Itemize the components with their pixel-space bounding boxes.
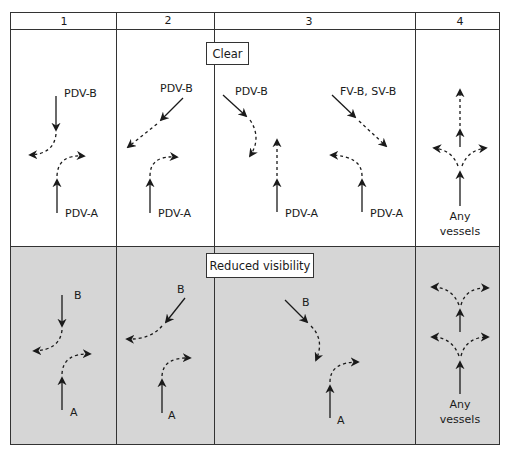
reduced-col2-bottom-vessel: A bbox=[168, 409, 176, 422]
clear-col3-right-bottom-vessel: PDV-A bbox=[370, 207, 404, 220]
clear-col3-left-top-vessel: PDV-B bbox=[235, 85, 268, 98]
dashed-turn-arrow-icon bbox=[57, 156, 84, 176]
clear-col4-diagram bbox=[434, 90, 486, 206]
clear-label: Clear bbox=[212, 47, 242, 61]
clear-col1-bottom-vessel: PDV-A bbox=[65, 207, 99, 220]
clear-col4-vessel-line2: vessels bbox=[440, 225, 481, 238]
reduced-col3-bottom-vessel: A bbox=[337, 414, 345, 427]
column-header-1: 1 bbox=[61, 15, 68, 28]
column-header-4: 4 bbox=[457, 15, 464, 28]
dashed-arrow-icon bbox=[359, 121, 386, 146]
clear-col2-diagram bbox=[128, 98, 183, 213]
clear-col4-vessel-line1: Any bbox=[449, 210, 470, 223]
maneuver-diagram: 1 2 3 4 Clear Reduced visibility PDV-B P… bbox=[0, 0, 509, 456]
arrow-icon bbox=[161, 98, 183, 120]
dashed-turn-arrow-icon bbox=[30, 134, 56, 155]
clear-col2-top-vessel: PDV-B bbox=[160, 82, 193, 95]
clear-col3-diagram bbox=[223, 95, 386, 212]
dashed-turn-arrow-icon bbox=[150, 157, 177, 176]
clear-col3-left-bottom-vessel: PDV-A bbox=[285, 207, 319, 220]
reduced-col2-top-vessel: B bbox=[177, 283, 185, 296]
clear-label-box: Clear bbox=[207, 43, 249, 65]
dashed-turn-arrow-icon bbox=[250, 120, 256, 156]
dashed-turn-arrow-icon bbox=[331, 155, 362, 176]
clear-col3-right-top-vessel: FV-B, SV-B bbox=[340, 85, 396, 98]
clear-col1-diagram bbox=[30, 96, 84, 213]
arrow-icon bbox=[332, 95, 355, 117]
dashed-arrow-icon bbox=[128, 124, 157, 147]
reduced-col1-top-vessel: B bbox=[74, 289, 82, 302]
dashed-branch-left-icon bbox=[434, 148, 458, 166]
reduced-col4-vessel-line1: Any bbox=[449, 398, 470, 411]
dashed-branch-right-icon bbox=[462, 148, 486, 166]
column-headers: 1 2 3 4 bbox=[61, 14, 464, 28]
arrow-icon bbox=[223, 95, 246, 116]
column-header-2: 2 bbox=[165, 14, 172, 27]
reduced-col3-top-vessel: B bbox=[302, 296, 310, 309]
reduced-col1-bottom-vessel: A bbox=[70, 406, 78, 419]
reduced-visibility-label: Reduced visibility bbox=[210, 259, 311, 273]
reduced-col4-vessel-line2: vessels bbox=[440, 413, 481, 426]
clear-col1-top-vessel: PDV-B bbox=[64, 87, 97, 100]
column-header-3: 3 bbox=[306, 15, 313, 28]
reduced-visibility-label-box: Reduced visibility bbox=[207, 254, 314, 278]
clear-col2-bottom-vessel: PDV-A bbox=[158, 207, 192, 220]
